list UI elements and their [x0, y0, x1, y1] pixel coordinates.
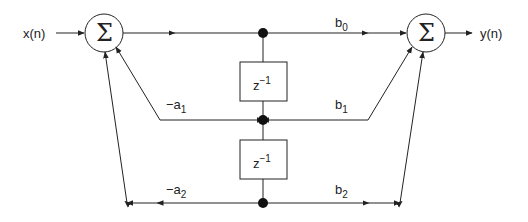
node-bottom [258, 198, 268, 208]
coef-a1: −a1 [166, 98, 186, 115]
coef-b2: b2 [335, 183, 348, 200]
delay-label-1: z−1 [253, 76, 271, 92]
coef-b0: b0 [335, 16, 348, 33]
filter-diagram [0, 0, 528, 222]
input-label: x(n) [23, 27, 45, 40]
delay-exp: −1 [260, 153, 271, 164]
left-summer-symbol: Σ [96, 21, 113, 45]
delay-label-2: z−1 [253, 154, 271, 170]
coef-b1: b1 [335, 98, 348, 115]
a2-path [105, 52, 263, 203]
right-summer-symbol: Σ [418, 21, 435, 45]
coef-a2: −a2 [166, 183, 186, 200]
node-top [258, 28, 268, 38]
node-middle [258, 115, 268, 125]
delay-exp: −1 [260, 75, 271, 86]
output-label: y(n) [480, 27, 502, 40]
